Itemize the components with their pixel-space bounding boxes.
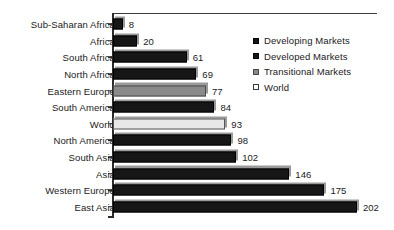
bar[interactable] <box>113 118 225 129</box>
bar-face <box>113 152 236 163</box>
bar[interactable] <box>113 201 357 212</box>
bar-value-label: 93 <box>231 118 242 129</box>
category-label: South America <box>52 102 115 113</box>
bar-value-label: 202 <box>363 201 379 212</box>
category-axis-foot-tick <box>108 216 114 218</box>
bar[interactable] <box>113 69 196 80</box>
bar-row: South America84 <box>0 99 394 116</box>
bar[interactable] <box>113 52 187 63</box>
bar-row: Asia146 <box>0 165 394 182</box>
bar-face <box>113 19 123 30</box>
bar-row: Sub-Saharan Africa8 <box>0 16 394 33</box>
legend-item[interactable]: Transitional Markets <box>253 64 351 80</box>
bar-row: Western Europe175 <box>0 182 394 199</box>
category-label: Sub-Saharan Africa <box>31 19 115 30</box>
category-label: North America <box>54 135 116 146</box>
legend-label: World <box>264 82 289 93</box>
bar-row: North America98 <box>0 132 394 149</box>
legend-label: Transitional Markets <box>264 66 351 77</box>
legend-label: Developed Markets <box>264 51 348 62</box>
legend-item[interactable]: Developed Markets <box>253 49 351 65</box>
bar-value-label: 20 <box>143 35 154 46</box>
legend-swatch-icon <box>253 53 259 59</box>
bar-value-label: 175 <box>330 185 346 196</box>
legend-swatch-icon <box>253 84 259 90</box>
bar-face <box>113 85 206 96</box>
bar-value-label: 61 <box>193 52 204 63</box>
legend-swatch-icon <box>253 38 259 44</box>
bar[interactable] <box>113 135 231 146</box>
bar-value-label: 146 <box>295 168 311 179</box>
bar[interactable] <box>113 85 206 96</box>
bar-value-label: 8 <box>129 19 134 30</box>
bar-face <box>113 52 187 63</box>
bar-face <box>113 35 137 46</box>
bar[interactable] <box>113 102 214 113</box>
legend-item[interactable]: Developing Markets <box>253 33 351 49</box>
bar-face <box>113 102 214 113</box>
bar-row: South Asia102 <box>0 149 394 166</box>
chart-legend: Developing MarketsDeveloped MarketsTrans… <box>253 33 351 95</box>
bar[interactable] <box>113 185 324 196</box>
bar[interactable] <box>113 152 236 163</box>
bar-row: World93 <box>0 116 394 133</box>
bar-value-label: 69 <box>202 69 213 80</box>
bar-chart: Sub-Saharan Africa8Africa20South Africa6… <box>0 0 394 230</box>
chart-top-rule <box>113 13 377 14</box>
legend-swatch-icon <box>253 69 259 75</box>
bar-value-label: 102 <box>242 152 258 163</box>
bar-face <box>113 135 231 146</box>
bar-value-label: 77 <box>212 85 223 96</box>
bar-face <box>113 201 357 212</box>
bar-face <box>113 118 225 129</box>
bar-face <box>113 69 196 80</box>
category-label: Western Europe <box>45 185 115 196</box>
legend-item[interactable]: World <box>253 80 351 96</box>
legend-label: Developing Markets <box>264 35 350 46</box>
bar[interactable] <box>113 19 123 30</box>
bar-face <box>113 185 324 196</box>
bar[interactable] <box>113 168 289 179</box>
bar-face <box>113 168 289 179</box>
category-label: Eastern Europe <box>48 85 115 96</box>
bar[interactable] <box>113 35 137 46</box>
bar-value-label: 84 <box>220 102 231 113</box>
bar-row: East Asia202 <box>0 199 394 216</box>
bar-value-label: 98 <box>237 135 248 146</box>
